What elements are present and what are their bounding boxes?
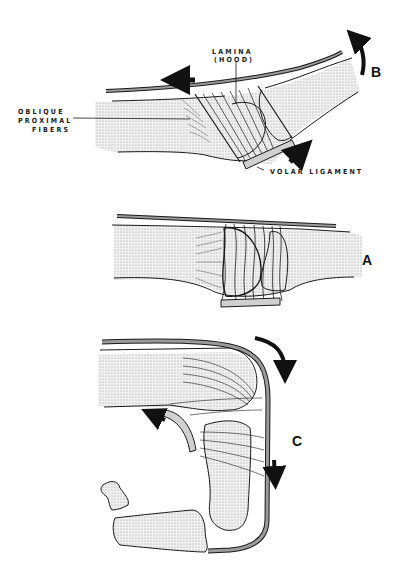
- volar-ligament-a: [221, 298, 280, 307]
- bone-c: [98, 352, 256, 410]
- bone-a: [114, 225, 362, 297]
- label-hood: (HOOD): [214, 56, 254, 65]
- distal-bone-c: [113, 510, 207, 552]
- label-volar-ligament: VOLAR LIGAMENT: [270, 168, 363, 177]
- panel-letter-a: A: [362, 252, 372, 268]
- bone-b: [95, 58, 360, 165]
- label-fibers: FIBERS: [32, 126, 70, 135]
- arrow-up-right-b: [290, 150, 302, 162]
- small-bone-c: [101, 482, 128, 510]
- label-oblique: OBLIQUE: [18, 108, 65, 117]
- panel-letter-b: B: [371, 64, 381, 80]
- label-proximal: PROXIMAL: [18, 117, 73, 126]
- arrow-down-c: [274, 460, 275, 478]
- arrow-curve-b: [355, 38, 364, 75]
- panel-a-drawing: [112, 216, 362, 307]
- phalanx-c: [204, 421, 251, 530]
- panel-c-drawing: [98, 338, 285, 552]
- diagram-canvas: [0, 0, 395, 571]
- volar-ligament-c: [163, 410, 196, 452]
- panel-letter-c: C: [292, 433, 302, 449]
